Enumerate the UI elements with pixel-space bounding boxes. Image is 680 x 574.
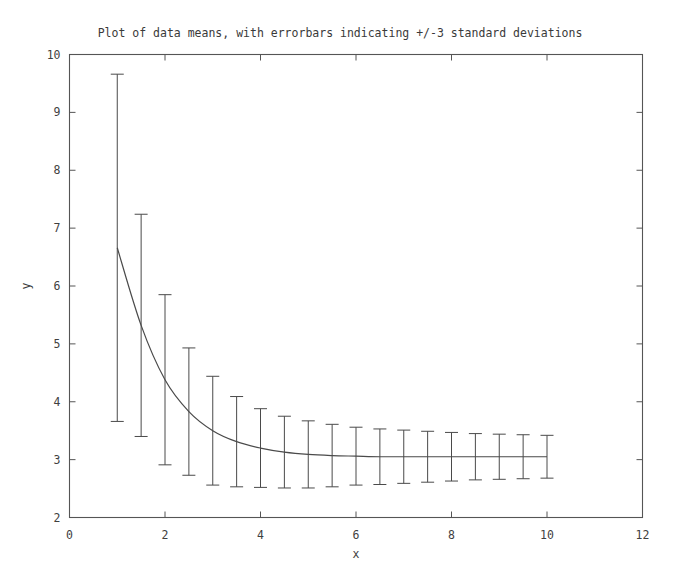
- chart-plot-area: 0246810122345678910 xy: [0, 0, 680, 574]
- x-tick-label: 2: [162, 528, 169, 542]
- y-tick-label: 3: [54, 453, 61, 467]
- x-tick-label: 12: [636, 528, 650, 542]
- y-tick-label: 2: [54, 511, 61, 525]
- x-tick-label: 8: [448, 528, 455, 542]
- x-axis-title: x: [353, 547, 360, 561]
- y-tick-label: 6: [54, 279, 61, 293]
- y-tick-label: 9: [54, 105, 61, 119]
- y-axis-title: y: [19, 282, 33, 289]
- y-tick-label: 10: [47, 48, 61, 62]
- x-tick-label: 4: [257, 528, 264, 542]
- y-tick-label: 7: [54, 221, 61, 235]
- errorbar-series: [111, 74, 554, 488]
- y-tick-label: 4: [54, 395, 61, 409]
- tick-label-group: 0246810122345678910: [47, 48, 650, 542]
- x-tick-label: 6: [353, 528, 360, 542]
- figure-canvas: Plot of data means, with errorbars indic…: [0, 0, 680, 574]
- x-tick-label: 0: [66, 528, 73, 542]
- y-tick-label: 8: [54, 163, 61, 177]
- x-tick-label: 10: [540, 528, 554, 542]
- y-tick-label: 5: [54, 337, 61, 351]
